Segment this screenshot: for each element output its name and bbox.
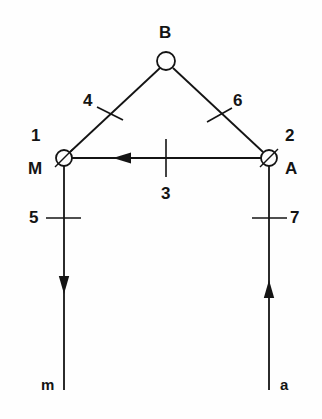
truss-diagram: B 1 M 2 A 4 6 3 5 7 m a (0, 0, 322, 419)
member-label-5: 5 (29, 209, 38, 226)
member-3-arrowhead (113, 153, 131, 164)
member-lines (64, 68, 269, 390)
node-label-M: M (28, 160, 42, 177)
force-label-a: a (280, 377, 288, 392)
diagram-canvas (0, 0, 322, 419)
member-label-6: 6 (233, 92, 242, 109)
node-number-2: 2 (285, 127, 294, 144)
node-label-B: B (159, 24, 171, 41)
member-label-4: 4 (83, 92, 92, 109)
node-number-1: 1 (31, 127, 40, 144)
member-5-arrowhead (59, 276, 69, 294)
member-label-3: 3 (161, 185, 170, 202)
member-6-line (173, 68, 263, 152)
member-4-line (70, 68, 160, 152)
node-label-A: A (285, 160, 297, 177)
force-label-m: m (41, 377, 54, 392)
member-label-7: 7 (290, 209, 299, 226)
node-B-circle (157, 52, 175, 70)
member-4-tick (97, 107, 123, 120)
member-7-arrowhead (264, 280, 274, 298)
